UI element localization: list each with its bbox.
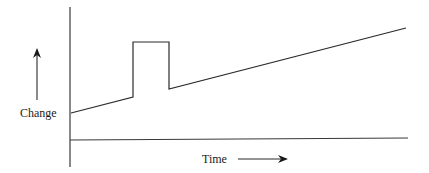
diagram-canvas: Change Time xyxy=(0,0,429,173)
y-axis-label: Change xyxy=(20,106,57,121)
change-curve xyxy=(71,28,406,113)
x-axis-label: Time xyxy=(202,152,227,167)
x-axis xyxy=(70,138,408,140)
diagram-svg xyxy=(0,0,429,173)
